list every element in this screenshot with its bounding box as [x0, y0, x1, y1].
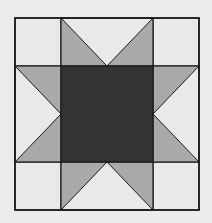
corner-bottom-right [153, 162, 199, 210]
star-point-left [15, 66, 61, 162]
star-point-right [153, 66, 199, 162]
corner-top-left [15, 18, 61, 66]
corner-top-right [153, 18, 199, 66]
star-point-bottom [61, 162, 153, 210]
quilt-block [0, 0, 212, 223]
star-point-top [61, 18, 153, 66]
corner-bottom-left [15, 162, 61, 210]
center-square [61, 66, 153, 162]
